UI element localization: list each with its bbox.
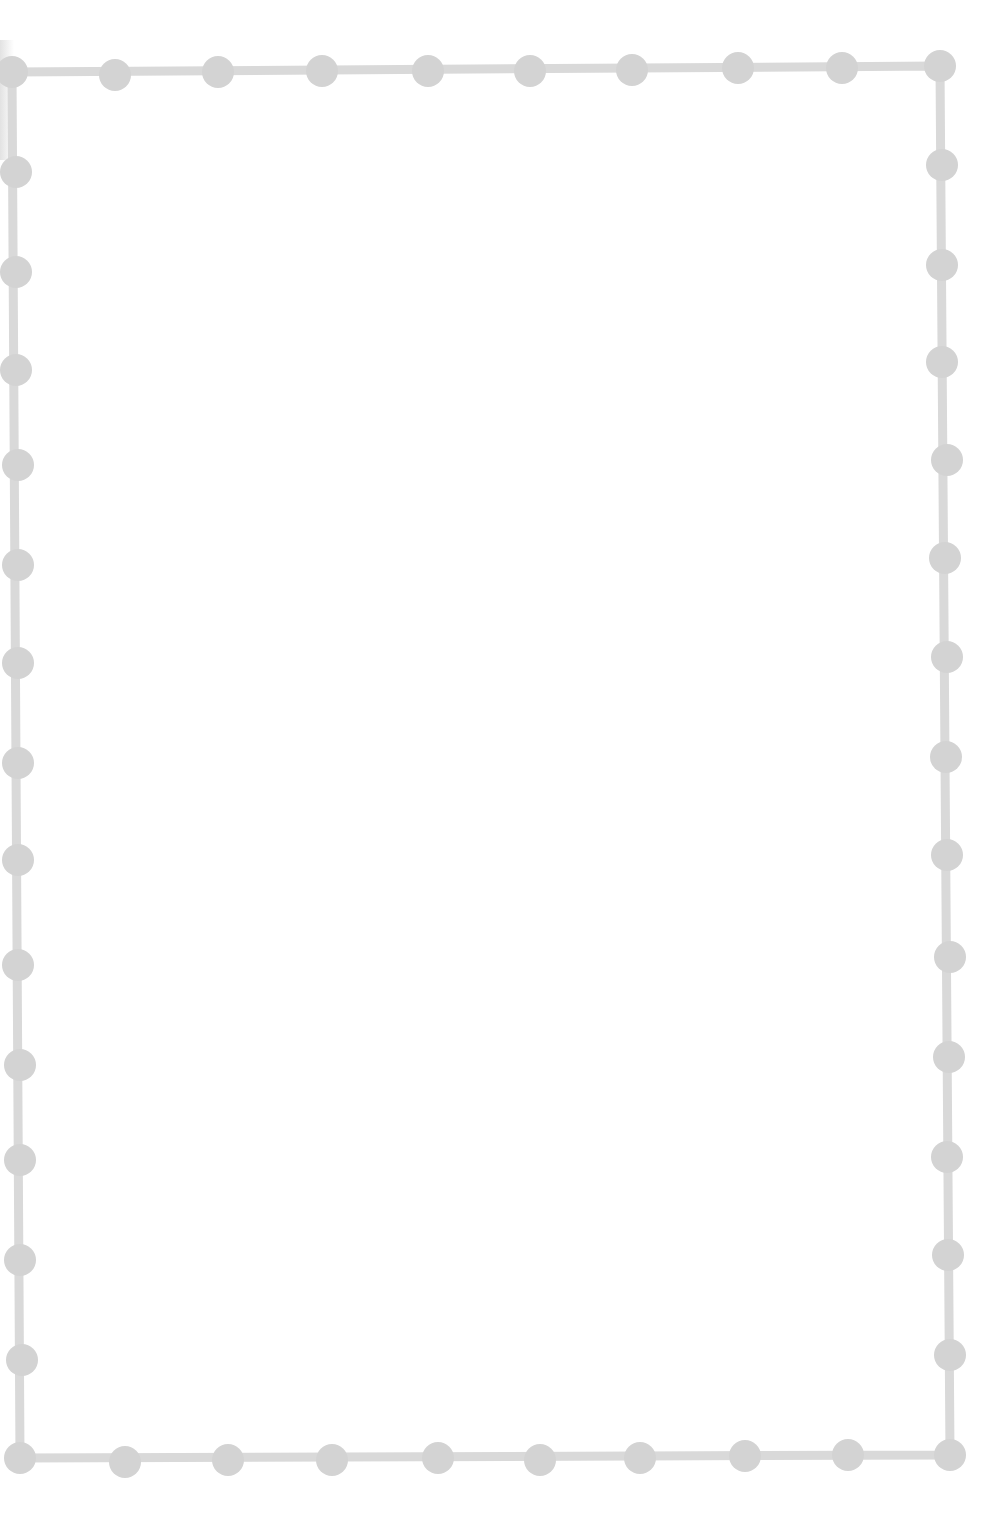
beaded-border-frame bbox=[0, 0, 1007, 1525]
border-bead bbox=[931, 1141, 963, 1173]
border-bead bbox=[316, 1444, 348, 1476]
border-bead bbox=[514, 55, 546, 87]
border-bead bbox=[722, 52, 754, 84]
border-bead bbox=[930, 741, 962, 773]
border-bead bbox=[926, 149, 958, 181]
border-bead bbox=[931, 839, 963, 871]
border-bead bbox=[926, 249, 958, 281]
border-bead bbox=[832, 1439, 864, 1471]
border-bead bbox=[0, 156, 32, 188]
border-bead bbox=[212, 1444, 244, 1476]
border-bead bbox=[616, 54, 648, 86]
border-bead bbox=[934, 941, 966, 973]
border-bead bbox=[933, 1041, 965, 1073]
border-bead bbox=[4, 1049, 36, 1081]
border-bead bbox=[926, 346, 958, 378]
border-bead bbox=[524, 1444, 556, 1476]
border-bead bbox=[109, 1446, 141, 1478]
border-bead bbox=[934, 1439, 966, 1471]
border-bead bbox=[6, 1344, 38, 1376]
border-bead bbox=[729, 1440, 761, 1472]
border-bead bbox=[2, 549, 34, 581]
border-bead bbox=[4, 1244, 36, 1276]
border-bead bbox=[932, 1239, 964, 1271]
border-bead bbox=[99, 59, 131, 91]
border-bead bbox=[624, 1442, 656, 1474]
border-bead bbox=[924, 50, 956, 82]
border-bead bbox=[0, 56, 28, 88]
border-bead bbox=[4, 1442, 36, 1474]
border-bead bbox=[422, 1442, 454, 1474]
border-bead bbox=[826, 52, 858, 84]
border-bead bbox=[2, 647, 34, 679]
border-bead bbox=[4, 1144, 36, 1176]
border-bead bbox=[0, 354, 32, 386]
border-bead bbox=[929, 542, 961, 574]
border-beads bbox=[0, 50, 966, 1478]
border-bead bbox=[412, 55, 444, 87]
border-bead bbox=[931, 444, 963, 476]
border-bead bbox=[306, 55, 338, 87]
border-line bbox=[12, 66, 950, 1458]
border-bead bbox=[2, 449, 34, 481]
border-bead bbox=[2, 747, 34, 779]
border-bead bbox=[2, 844, 34, 876]
border-bead bbox=[934, 1339, 966, 1371]
border-bead bbox=[2, 949, 34, 981]
border-bead bbox=[0, 256, 32, 288]
border-bead bbox=[931, 641, 963, 673]
border-bead bbox=[202, 56, 234, 88]
